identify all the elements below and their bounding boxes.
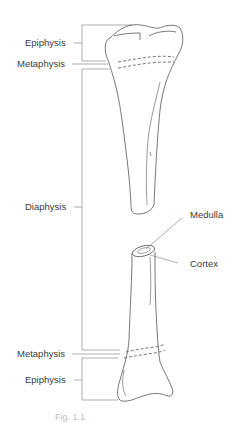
upper-bone-segment — [105, 25, 183, 214]
region-brackets — [72, 25, 132, 400]
medulla-leader — [146, 218, 182, 249]
label-medulla: Medulla — [190, 210, 223, 220]
figure-caption: Fig. 1.1 — [55, 412, 85, 422]
label-epiphysis-top: Epiphysis — [25, 38, 66, 48]
label-metaphysis-top: Metaphysis — [17, 59, 65, 69]
label-metaphysis-bottom: Metaphysis — [17, 349, 65, 359]
lower-bone-segment — [118, 243, 173, 401]
label-epiphysis-bottom: Epiphysis — [25, 375, 66, 385]
label-cortex: Cortex — [190, 259, 218, 269]
label-diaphysis: Diaphysis — [25, 202, 66, 212]
cortex-leader — [150, 255, 178, 263]
